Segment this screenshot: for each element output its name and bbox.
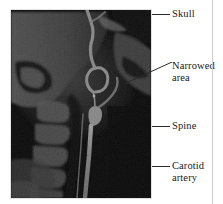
annotation-label-spine: Spine <box>172 120 196 132</box>
angiogram-image <box>11 10 151 198</box>
annotation-label-skull: Skull <box>172 8 195 20</box>
annotation-label-narrowed-area: Narrowed area <box>172 60 215 83</box>
leader-line-icon-skull <box>152 14 170 15</box>
annotation-label-carotid-artery: Carotid artery <box>172 160 204 183</box>
leader-line-icon-spine <box>152 126 170 127</box>
angiogram-canvas <box>11 10 151 198</box>
leader-line-icon-carotid <box>152 166 170 167</box>
figure-right-rule <box>212 0 213 204</box>
annotated-angiogram-figure: Skull Narrowed area Spine Carotid artery <box>0 0 223 204</box>
